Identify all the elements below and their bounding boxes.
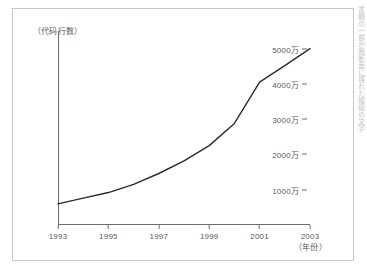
margin-bleed-text: 書籍の一部が裁断面に現れた縦組の文字 xyxy=(351,6,365,206)
x-axis-title: （年份） xyxy=(294,241,327,252)
x-axis-tick: 1993 xyxy=(49,225,68,241)
data-series-line xyxy=(58,49,310,204)
x-axis-tick-label: 1999 xyxy=(200,232,219,241)
x-axis-tick: 2001 xyxy=(250,225,269,241)
x-axis-tick-mark xyxy=(309,225,310,229)
x-axis-tick-mark xyxy=(57,225,58,229)
x-axis-tick-mark xyxy=(259,225,260,229)
x-axis-tick-mark xyxy=(158,225,159,229)
x-axis-tick-mark xyxy=(209,225,210,229)
x-axis-tick-mark xyxy=(108,225,109,229)
data-line-chart xyxy=(58,31,310,225)
x-axis-tick: 1999 xyxy=(200,225,219,241)
x-axis-tick-label: 1995 xyxy=(99,232,118,241)
chart-frame: （代码行数） 5000万4000万3000万2000万1000万 1993199… xyxy=(12,8,354,261)
x-axis-tick: 1995 xyxy=(99,225,118,241)
x-axis-tick-label: 1993 xyxy=(49,232,68,241)
x-axis-tick: 2003 xyxy=(301,225,320,241)
x-axis-tick-label: 2003 xyxy=(301,232,320,241)
x-axis-tick-label: 2001 xyxy=(250,232,269,241)
plot-area: 5000万4000万3000万2000万1000万 19931995199719… xyxy=(58,31,310,225)
x-axis-tick: 1997 xyxy=(149,225,168,241)
x-axis-tick-label: 1997 xyxy=(149,232,168,241)
